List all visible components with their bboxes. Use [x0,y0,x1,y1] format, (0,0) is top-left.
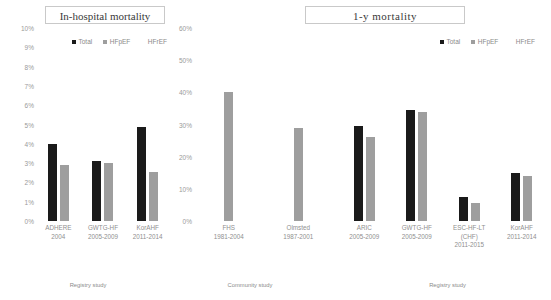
y-axis-tick: 30% [179,121,192,128]
y-axis-tick: 40% [179,89,192,96]
chart-panel-registry-1y: ARIC2005-2009GWTG-HF2005-2009ESC-HF-LT(C… [338,28,548,234]
bracket-community-study: Community study [185,278,315,294]
x-axis-category-label: ADHERE2004 [36,224,81,241]
chart-panel-community-study: 0%10%20%30%40%50%60% FHS1981-2004Olmsted… [168,28,333,234]
bar-hfpef[interactable] [149,172,158,221]
category-label-line: ADHERE [36,224,81,233]
bar-hfpef[interactable] [471,203,480,221]
bracket-label-text: Community study [224,282,277,288]
category-label-line: 1987-2001 [264,233,334,242]
category-label-line: KorAHF [496,224,549,233]
y-axis-tick: 8% [25,63,34,70]
x-axis-category-label: ARIC2005-2009 [338,224,391,241]
bracket-registry-study-2: Registry study [355,278,540,294]
bar-total[interactable] [137,127,146,221]
category-label-line: ESC-HF-LT [443,224,496,233]
bracket-label-text: Registry study [66,282,111,288]
y-axis-tick: 0% [25,218,34,225]
bar-total[interactable] [459,197,468,221]
bar-hfpef[interactable] [523,176,532,221]
chart-panel-in-hospital-mortality: 0%1%2%3%4%5%6%7%8%9%10% ADHERE2004GWTG-H… [10,28,170,234]
category-label-line: 2005-2009 [81,233,126,242]
category-label-line: (CHF) [443,233,496,242]
bar-hfpef[interactable] [294,128,303,221]
category-label-line: FHS [194,224,264,233]
panel-title-1y-mortality: 1-y mortality [305,6,465,24]
category-label-line: KorAHF [125,224,170,233]
plot-area-panel-1 [36,28,170,221]
bracket-label: Registry study [355,278,540,292]
bar-group [496,28,549,221]
bar-hfpef[interactable] [60,165,69,221]
bar-hfpef[interactable] [366,137,375,221]
bar-hfpef[interactable] [224,92,233,221]
bracket-registry-study-1: Registry study [28,278,148,294]
y-axis-tick: 0% [183,218,192,225]
y-axis-tick: 5% [25,121,34,128]
y-axis-panel-2: 0%10%20%30%40%50%60% [168,28,194,221]
bracket-label-text: Registry study [425,282,470,288]
x-axis-labels-panel-2: FHS1981-2004Olmsted1987-2001 [194,224,333,258]
category-label-line: ARIC [338,224,391,233]
category-label-line: 2005-2009 [338,233,391,242]
bar-total[interactable] [354,126,363,221]
plot-area-panel-3 [338,28,548,221]
x-axis-category-label: KorAHF2011-2014 [125,224,170,241]
bar-group [81,28,126,221]
x-axis-labels-panel-1: ADHERE2004GWTG-HF2005-2009KorAHF2011-201… [36,224,170,258]
bar-group [36,28,81,221]
y-axis-tick: 2% [25,179,34,186]
bar-group [125,28,170,221]
x-axis-category-label: ESC-HF-LT(CHF)2011-2015 [443,224,496,250]
plot-area-panel-2 [194,28,333,221]
y-axis-tick: 20% [179,153,192,160]
figure-mortality-bar-charts: In-hospital mortality 1-y mortality Tota… [0,0,551,300]
bar-group [443,28,496,221]
y-axis-tick: 7% [25,82,34,89]
bracket-label: Registry study [28,278,148,292]
category-label-line: GWTG-HF [391,224,444,233]
y-axis-tick: 10% [21,25,34,32]
bar-total[interactable] [406,110,415,221]
x-axis-category-label: Olmsted1987-2001 [264,224,334,241]
bar-group [391,28,444,221]
y-axis-tick: 50% [179,57,192,64]
bar-hfpef[interactable] [418,112,427,221]
bar-group [264,28,334,221]
panel-title-in-hospital-mortality: In-hospital mortality [45,6,165,24]
bar-group [194,28,264,221]
y-axis-tick: 10% [179,185,192,192]
bar-total[interactable] [48,144,57,221]
category-label-line: 2011-2014 [496,233,549,242]
x-axis-category-label: FHS1981-2004 [194,224,264,241]
category-label-line: 2011-2014 [125,233,170,242]
y-axis-tick: 4% [25,140,34,147]
y-axis-tick: 1% [25,198,34,205]
y-axis-tick: 3% [25,160,34,167]
bar-total[interactable] [92,161,101,221]
category-label-line: 2004 [36,233,81,242]
bar-group [338,28,391,221]
category-label-line: 2011-2015 [443,241,496,250]
y-axis-tick: 9% [25,44,34,51]
bar-total[interactable] [511,173,520,221]
bracket-label: Community study [185,278,315,292]
x-axis-labels-panel-3: ARIC2005-2009GWTG-HF2005-2009ESC-HF-LT(C… [338,224,548,258]
category-label-line: 1981-2004 [194,233,264,242]
category-label-line: Olmsted [264,224,334,233]
y-axis-panel-1: 0%1%2%3%4%5%6%7%8%9%10% [10,28,36,221]
y-axis-tick: 6% [25,102,34,109]
x-axis-category-label: KorAHF2011-2014 [496,224,549,241]
category-label-line: GWTG-HF [81,224,126,233]
x-axis-category-label: GWTG-HF2005-2009 [81,224,126,241]
category-label-line: 2005-2009 [391,233,444,242]
x-axis-category-label: GWTG-HF2005-2009 [391,224,444,241]
y-axis-tick: 60% [179,25,192,32]
bar-hfpef[interactable] [104,163,113,221]
